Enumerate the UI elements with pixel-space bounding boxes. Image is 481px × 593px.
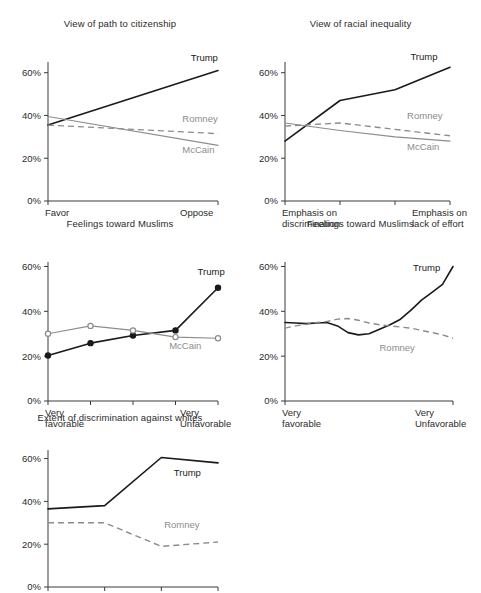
x-tick-label: Oppose bbox=[180, 207, 213, 218]
data-point-marker bbox=[130, 328, 135, 333]
data-point-marker bbox=[45, 331, 50, 336]
y-tick-label: 20% bbox=[259, 351, 279, 362]
y-tick-label: 20% bbox=[22, 153, 42, 164]
y-tick-label: 0% bbox=[27, 195, 41, 206]
data-point-marker bbox=[130, 333, 135, 338]
series-label-romney: Romney bbox=[407, 110, 443, 121]
y-tick-label: 0% bbox=[264, 395, 278, 406]
y-tick-label: 40% bbox=[22, 110, 42, 121]
y-tick-label: 60% bbox=[22, 67, 42, 78]
series-label-trump: Trump bbox=[413, 262, 440, 273]
y-tick-label: 60% bbox=[259, 261, 279, 272]
chart-panel-feelings-toward-muslims-smooth: Feelings toward Muslims0%20%40%60%Veryfa… bbox=[240, 218, 481, 408]
y-tick-label: 40% bbox=[22, 496, 42, 507]
chart-title: Extent of discrimination against whites bbox=[0, 412, 240, 423]
y-tick-label: 40% bbox=[259, 110, 279, 121]
y-tick-label: 0% bbox=[27, 395, 41, 406]
data-point-marker bbox=[173, 328, 178, 333]
y-tick-label: 20% bbox=[22, 351, 42, 362]
series-label-romney: Romney bbox=[182, 113, 218, 124]
data-point-marker bbox=[88, 341, 93, 346]
y-tick-label: 60% bbox=[259, 67, 279, 78]
chart-panel-feelings-toward-muslims-markers: Feelings toward Muslims0%20%40%60%Veryfa… bbox=[0, 218, 240, 408]
series-line-romney bbox=[48, 125, 218, 134]
series-label-mccain: McCain bbox=[169, 340, 201, 351]
y-tick-label: 40% bbox=[259, 306, 279, 317]
x-tick-label: Emphasis on bbox=[282, 207, 337, 218]
chart-canvas: 0%20%40%60%Emphasis ondiscriminationEmph… bbox=[240, 18, 481, 208]
x-tick-label: Unfavorable bbox=[415, 418, 466, 429]
x-tick-label: Emphasis on bbox=[412, 207, 467, 218]
x-tick-label: favorable bbox=[282, 418, 321, 429]
chart-title: View of racial inequality bbox=[240, 18, 481, 29]
chart-canvas: 0%20%40%60%VeryfavorableVeryUnfavorableT… bbox=[240, 218, 481, 408]
series-label-romney: Romney bbox=[164, 519, 200, 530]
series-line-trump bbox=[48, 457, 218, 508]
series-label-romney: Romney bbox=[380, 342, 416, 353]
data-point-marker bbox=[173, 335, 178, 340]
series-label-trump: Trump bbox=[198, 266, 225, 277]
y-tick-label: 60% bbox=[22, 453, 42, 464]
series-label-mccain: McCain bbox=[407, 141, 439, 152]
data-point-marker bbox=[88, 323, 93, 328]
series-label-mccain: McCain bbox=[182, 144, 214, 155]
x-tick-label: Very bbox=[415, 407, 434, 418]
chart-canvas: 0%20%40%60%VeryfavorableVeryUnfavorableT… bbox=[0, 218, 240, 408]
chart-panel-extent-of-discrimination-against-whites: Extent of discrimination against whites0… bbox=[0, 412, 240, 593]
y-tick-label: 0% bbox=[27, 581, 41, 592]
chart-panel-view-of-path-to-citizenship: View of path to citizenship0%20%40%60%Fa… bbox=[0, 18, 240, 208]
x-tick-label: Favor bbox=[45, 207, 69, 218]
chart-canvas: 0%20%40%60%FavorOpposeTrumpRomneyMcCain bbox=[0, 18, 240, 208]
series-line-romney bbox=[285, 319, 453, 339]
series-line-trump bbox=[285, 266, 453, 334]
data-point-marker bbox=[45, 353, 50, 358]
y-tick-label: 20% bbox=[22, 539, 42, 550]
y-tick-label: 60% bbox=[22, 261, 42, 272]
series-label-trump: Trump bbox=[410, 51, 437, 62]
data-point-marker bbox=[215, 285, 220, 290]
x-tick-label: Very bbox=[282, 407, 301, 418]
chart-title: View of path to citizenship bbox=[0, 18, 240, 29]
data-point-marker bbox=[215, 336, 220, 341]
y-tick-label: 40% bbox=[22, 306, 42, 317]
chart-title: Feelings toward Muslims bbox=[0, 218, 240, 229]
y-tick-label: 20% bbox=[259, 153, 279, 164]
series-label-trump: Trump bbox=[191, 52, 218, 63]
series-line-trump bbox=[285, 67, 450, 141]
y-tick-label: 0% bbox=[264, 195, 278, 206]
series-label-trump: Trump bbox=[174, 467, 201, 478]
chart-title: Feelings toward Muslims bbox=[240, 218, 481, 229]
chart-panel-view-of-racial-inequality: View of racial inequality0%20%40%60%Emph… bbox=[240, 18, 481, 208]
chart-canvas: 0%20%40%60%Noneat allA greatdealTrumpRom… bbox=[0, 412, 240, 593]
